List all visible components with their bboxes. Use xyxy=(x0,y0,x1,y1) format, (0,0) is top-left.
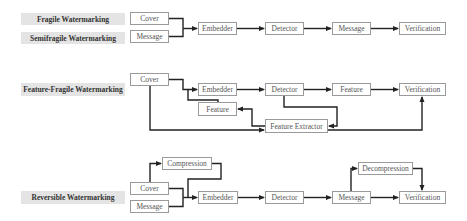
connector-arrows xyxy=(0,0,467,221)
